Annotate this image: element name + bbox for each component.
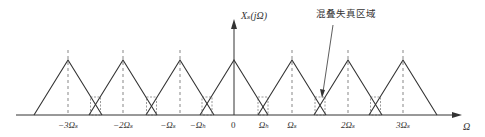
origin-label: 0 — [231, 120, 236, 130]
aliasing-regions — [91, 97, 381, 115]
aliasing-spectrum-diagram: Xₛ(jΩ) 混叠失真区域 Ω 0 −3Ωₛ−2Ωₛ−Ωₛ−ΩₕΩₕΩₛ2Ωₛ3… — [0, 0, 485, 137]
tick-label: Ωₕ — [259, 120, 270, 130]
spectrum-replicas — [34, 50, 437, 115]
tick-label: −Ωₕ — [190, 120, 207, 130]
aliasing-annotation: 混叠失真区域 — [316, 8, 376, 19]
axis-arrow-icon — [452, 112, 462, 118]
aliasing-box — [202, 97, 212, 115]
tick-label: −Ωₛ — [160, 120, 176, 130]
frequency-axis — [16, 112, 462, 118]
tick-label: 2Ωₛ — [341, 120, 355, 130]
tick-label: −2Ωₛ — [113, 120, 133, 130]
axis-label-omega: Ω — [463, 121, 470, 132]
axis-arrow-icon — [231, 19, 237, 29]
tick-label: 3Ωₛ — [395, 120, 410, 130]
magnitude-axis — [231, 19, 237, 115]
tick-label: −3Ωₛ — [58, 120, 78, 130]
tick-label: Ωₛ — [287, 120, 297, 130]
spectrum-label: Xₛ(jΩ) — [240, 10, 268, 22]
